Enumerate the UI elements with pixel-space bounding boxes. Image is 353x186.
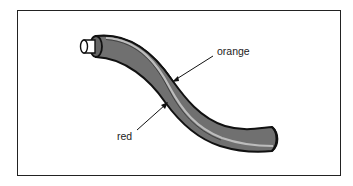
red-leader-line — [137, 105, 165, 130]
red-label: red — [117, 130, 132, 142]
cable-illustration — [0, 0, 353, 186]
orange-label: orange — [217, 45, 250, 57]
orange-leader-line — [175, 56, 213, 80]
